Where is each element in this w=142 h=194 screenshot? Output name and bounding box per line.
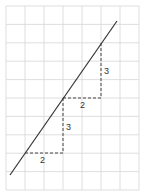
slope-diagram: 2 3 2 3 [0,0,142,194]
rise-label-1: 3 [66,122,71,132]
run-label-1: 2 [40,155,45,165]
grid-lines [6,6,139,190]
grid-canvas: 2 3 2 3 [0,0,142,194]
run-label-2: 2 [80,100,85,110]
rise-label-2: 3 [104,66,109,76]
